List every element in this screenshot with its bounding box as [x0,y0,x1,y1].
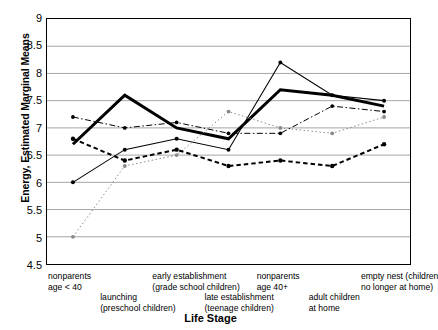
data-point-marker [330,164,334,168]
series-dotted [71,110,386,239]
x-tick-label-line: age 40+ [257,282,300,293]
data-point-marker [123,158,127,162]
data-point-marker [175,153,179,157]
data-point-marker [382,142,386,146]
x-tick-label-line: adult children [309,292,360,303]
data-point-marker [71,180,75,184]
x-tick-label-line: early establishment [152,271,239,282]
x-tick-label-line: age < 40 [48,282,91,293]
data-point-marker [227,131,231,135]
data-point-marker [278,126,282,130]
y-tick-label: 6.5 [27,150,42,161]
series-dashed-bold [71,137,387,169]
y-axis-tick-labels: 98.587.576.565.554.5 [0,0,42,330]
series-lines [47,19,410,264]
x-tick-label: late establishment(teenage children) [205,292,274,313]
x-tick-label-line: launching [100,292,175,303]
data-point-marker [278,131,282,135]
data-point-marker [330,93,334,97]
series-dash-dot [71,104,386,135]
data-point-marker [71,137,75,141]
data-point-marker [278,61,282,65]
series-path [73,112,384,237]
data-point-marker [175,137,179,141]
y-tick-label: 9 [36,13,42,24]
data-point-marker [71,235,75,239]
data-point-marker [175,121,179,125]
x-tick-label-line: (grade school children) [152,282,239,293]
data-point-marker [174,147,178,151]
x-tick-label-line: late establishment [205,292,274,303]
y-tick-label: 5 [36,232,42,243]
data-point-marker [123,148,127,152]
x-tick-label: empty nest (childrenno longer at home) [361,271,438,292]
x-axis-title: Life Stage [0,312,421,324]
x-tick-label: launching(preschool children) [100,292,175,313]
x-tick-label: adult childrenat home [309,292,360,313]
x-tick-label-line: nonparents [257,271,300,282]
data-point-marker [330,131,334,135]
x-tick-label: nonparentsage < 40 [48,271,91,292]
data-point-marker [382,115,386,119]
data-point-marker [123,126,127,130]
y-tick-label: 8 [36,67,42,78]
data-point-marker [71,115,75,119]
data-point-marker [227,148,231,152]
data-point-marker [382,99,386,103]
y-tick-label: 7.5 [27,95,42,106]
y-tick-label: 6 [36,177,42,188]
data-point-marker [227,110,231,114]
x-tick-label-line: empty nest (children [361,271,438,282]
data-point-marker [330,104,334,108]
series-thick-solid [73,90,384,144]
x-tick-label: nonparentsage 40+ [257,271,300,292]
data-point-marker [278,158,282,162]
y-tick-label: 5.5 [27,205,42,216]
x-tick-label-line: no longer at home) [361,282,438,293]
y-tick-label: 4.5 [27,260,42,271]
plot-area [46,18,411,265]
data-point-marker [226,164,230,168]
series-path [73,90,384,144]
data-point-marker [382,110,386,114]
x-tick-label-line: nonparents [48,271,91,282]
data-point-marker [123,164,127,168]
y-tick-label: 8.5 [27,40,42,51]
y-tick-label: 7 [36,122,42,133]
x-tick-label: early establishment(grade school childre… [152,271,239,292]
